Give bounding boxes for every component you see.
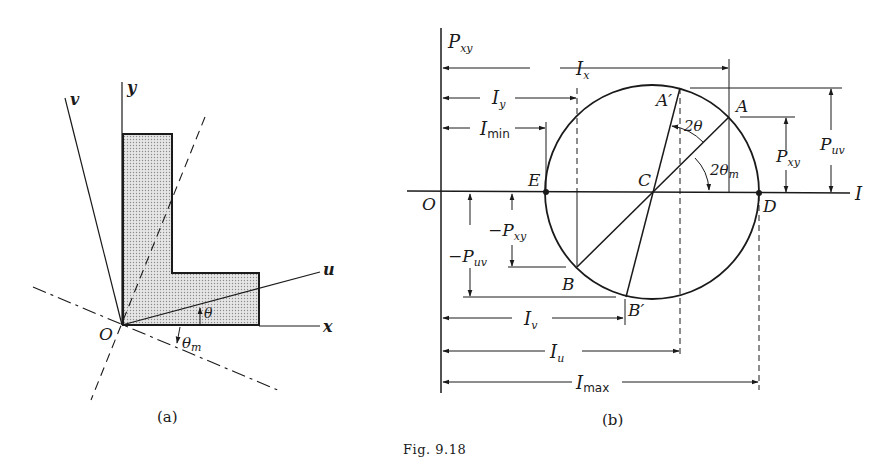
neg-puv-label: −Puv — [448, 246, 488, 269]
two-theta-label: 2θ — [683, 117, 703, 135]
pxy-axis-label: Pxy — [447, 31, 473, 55]
panel-b-label: (b) — [602, 411, 623, 429]
u-axis-label: u — [323, 260, 335, 279]
theta-label: θ — [204, 305, 213, 321]
point-d-label: D — [762, 196, 777, 216]
origin-label-a: O — [99, 324, 113, 344]
iu-label: Iu — [549, 341, 564, 365]
point-b-label: B — [561, 274, 575, 294]
theta-m-arc — [177, 327, 180, 343]
point-c-label: C — [638, 170, 651, 190]
l-section-shape — [123, 134, 259, 325]
x-axis-label: x — [322, 317, 333, 336]
panel-a-label: (a) — [157, 408, 178, 426]
two-theta-m-arc — [695, 158, 709, 190]
point-b-prime-label: B′ — [627, 300, 644, 320]
ix-label: Ix — [575, 58, 590, 82]
i-axis-label: I — [854, 183, 863, 204]
point-e-label: E — [527, 170, 541, 190]
puv-label: Puv — [819, 134, 846, 157]
theta-m-label: θm — [182, 334, 201, 354]
v-axis — [65, 98, 122, 325]
imax-label: Imax — [575, 372, 609, 395]
neg-pxy-label: −Pxy — [488, 220, 527, 243]
imin-label: Imin — [479, 118, 510, 141]
figure-caption: Fig. 9.18 — [403, 442, 466, 457]
figure-canvas: v y u x O θ θm (a) — [0, 0, 893, 465]
point-a-label: A — [734, 96, 748, 116]
i-axis — [407, 191, 850, 193]
v-axis-label: v — [70, 90, 80, 109]
point-a-prime-label: A′ — [654, 90, 672, 110]
y-axis-label: y — [126, 78, 138, 97]
point-o-label: O — [422, 194, 436, 214]
pxy-label: Pxy — [775, 146, 801, 169]
panel-b: Pxy I O E C D A A′ B B′ 2θ 2θm Pxy Puv −… — [407, 28, 863, 429]
iv-label: Iv — [523, 308, 538, 332]
iy-label: Iy — [491, 87, 506, 111]
two-theta-m-label: 2θm — [709, 161, 739, 181]
panel-a: v y u x O θ θm (a) — [33, 78, 335, 426]
